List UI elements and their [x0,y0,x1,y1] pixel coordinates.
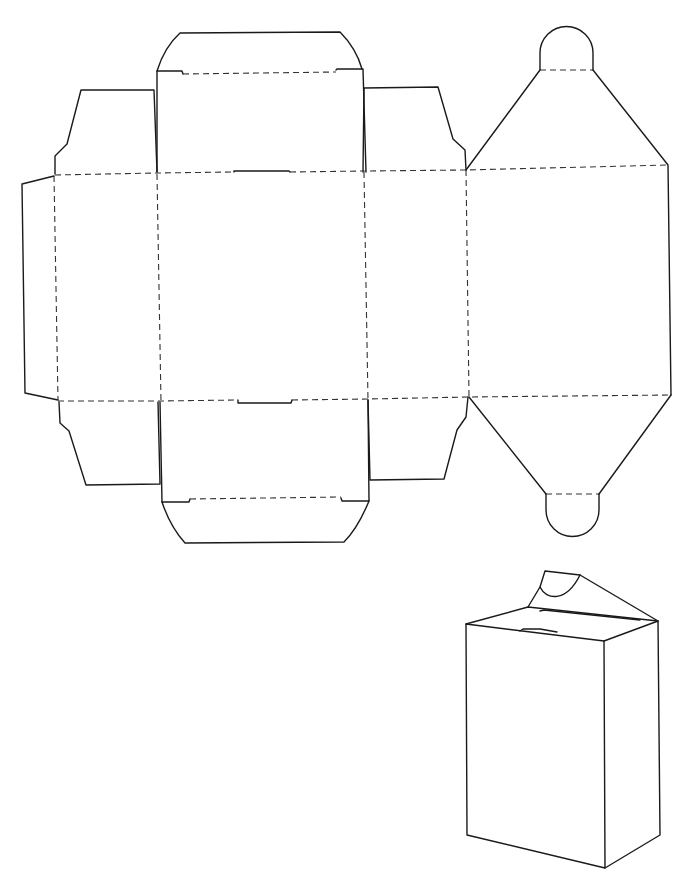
fold-side-front [157,174,161,402]
tuck-flap-top-curve [157,32,362,71]
fold-front-side [364,172,368,400]
tuck-flap-bottom-fold [190,497,341,499]
tuck-flap-top-fold [183,72,336,74]
dust-flap-right-top [363,87,466,172]
tuck-flap-bottom-curve [162,501,369,543]
lock-slit-bottom [238,400,292,403]
tuck-flap-bottom [160,400,369,502]
box-top-face [466,607,658,624]
gable-top [466,70,671,395]
box-top-notch [520,610,640,632]
box-front-face [466,624,605,868]
box-round-tab [540,575,580,597]
gable-bottom [469,395,671,494]
fold-side-back [466,170,469,397]
dust-flap-right-bottom [368,397,468,480]
fold-glue-side [54,176,58,400]
dust-flap-left-bottom [59,402,160,485]
fold-bottom-right [292,395,671,400]
tuck-flap-top [157,69,366,172]
round-tab-bottom [546,494,599,537]
fold-top-right [290,165,668,172]
assembled-box-view [466,571,660,868]
box-right-face [604,621,660,868]
box-net [22,27,671,544]
round-tab-top [540,27,593,71]
dust-flap-left-top [55,90,157,174]
box-dieline-diagram [0,0,695,887]
glue-flap [22,176,58,400]
fold-bottom [58,400,238,401]
fold-top [55,172,234,175]
lock-slit-top [234,171,290,172]
